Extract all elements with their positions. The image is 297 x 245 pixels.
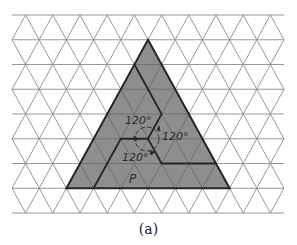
region-label-p: P: [129, 172, 136, 186]
angle-label-top: 120°: [125, 114, 152, 127]
angle-label-bottom: 120°: [122, 151, 149, 164]
figure-caption: (a): [0, 221, 297, 237]
angle-label-right: 120°: [162, 130, 189, 143]
